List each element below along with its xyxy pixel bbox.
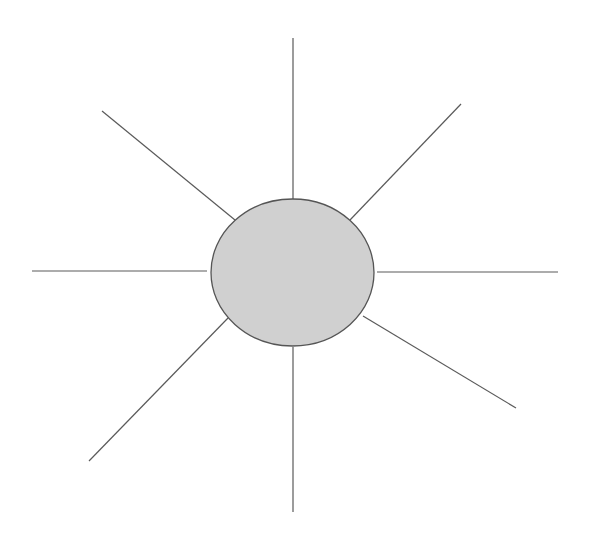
spoke-line-top-right xyxy=(350,104,461,220)
spoke-line-bottom-right xyxy=(363,316,516,408)
central-hub-ellipse xyxy=(211,199,374,346)
spoke-line-top-left xyxy=(102,111,235,220)
spider-diagram xyxy=(0,0,591,534)
spoke-line-bottom-left xyxy=(89,318,228,461)
spider-diagram-canvas xyxy=(0,0,591,534)
